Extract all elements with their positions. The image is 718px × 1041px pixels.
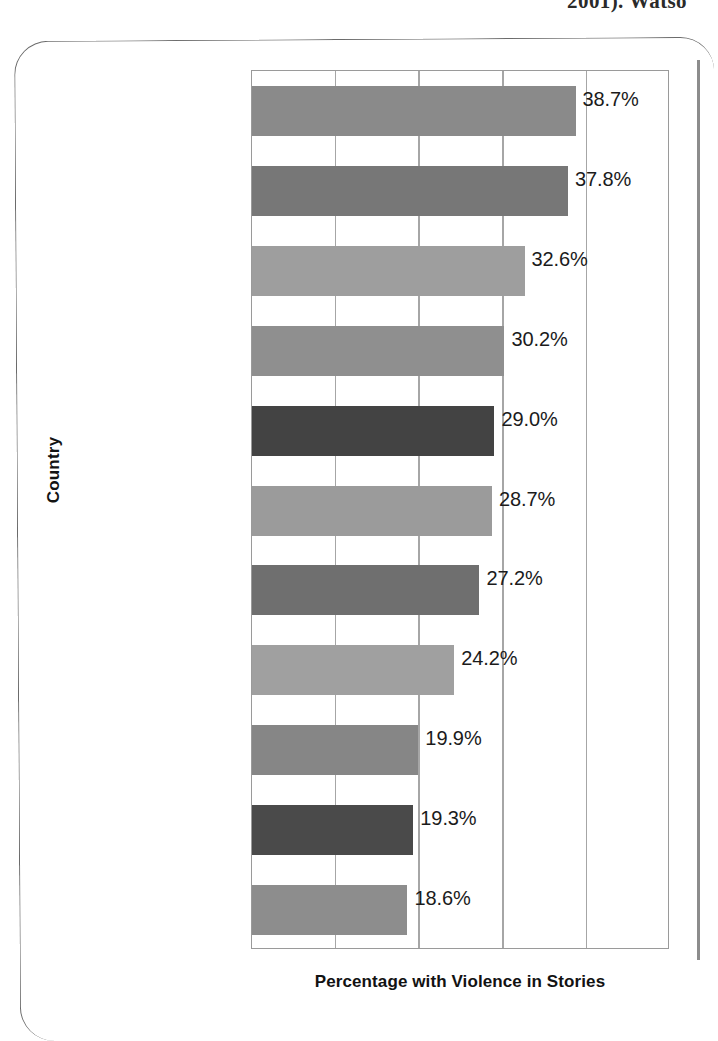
bar-value-label: 24.2%	[461, 647, 517, 670]
bar-value-label: 19.3%	[420, 807, 476, 830]
bar[interactable]	[252, 486, 492, 536]
bar-value-label: 28.7%	[499, 488, 555, 511]
x-axis-title: Percentage with Violence in Stories	[251, 972, 669, 992]
bar-value-label: 19.9%	[425, 727, 481, 750]
bar-row[interactable]: Northern Ireland32.6%	[252, 231, 668, 311]
bar-value-label: 37.8%	[575, 168, 631, 191]
plot-area: New Zealand38.7%Australia37.8%Northern I…	[251, 70, 669, 949]
bar-value-label: 32.6%	[532, 248, 588, 271]
bar[interactable]	[252, 565, 479, 615]
bar-value-label: 29.0%	[501, 408, 557, 431]
y-axis-title: Country	[44, 410, 64, 530]
bar-row[interactable]: United States30.2%	[252, 311, 668, 391]
bar[interactable]	[252, 645, 454, 695]
bar-rows-group: New Zealand38.7%Australia37.8%Northern I…	[252, 71, 668, 948]
bar-value-label: 27.2%	[486, 567, 542, 590]
bar[interactable]	[252, 246, 525, 296]
bar[interactable]	[252, 805, 413, 855]
bar[interactable]	[252, 406, 494, 456]
bar-row[interactable]: Japan29.0%	[252, 391, 668, 471]
bar[interactable]	[252, 166, 568, 216]
bar-value-label: 30.2%	[511, 328, 567, 351]
bar-row[interactable]: Korea18.6%	[252, 870, 668, 950]
bar-row[interactable]: Australia37.8%	[252, 151, 668, 231]
bar-row[interactable]: France24.2%	[252, 630, 668, 710]
bar[interactable]	[252, 885, 407, 935]
bar-row[interactable]: New Zealand38.7%	[252, 71, 668, 151]
bar-value-label: 38.7%	[583, 88, 639, 111]
bar-row[interactable]: Canada27.2%	[252, 550, 668, 630]
bar-value-label: 18.6%	[414, 887, 470, 910]
bar[interactable]	[252, 86, 576, 136]
bar-row[interactable]: Sweden19.3%	[252, 790, 668, 870]
bar-row[interactable]: England28.7%	[252, 471, 668, 551]
bar-row[interactable]: Mexico19.9%	[252, 710, 668, 790]
bar[interactable]	[252, 326, 504, 376]
bar[interactable]	[252, 725, 418, 775]
